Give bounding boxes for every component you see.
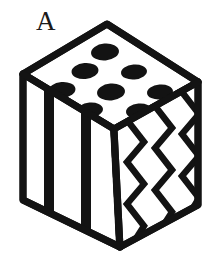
panel-label: A xyxy=(36,8,56,35)
vertical-stripe xyxy=(81,108,91,236)
vertical-stripe xyxy=(44,86,54,219)
isometric-block-diagram xyxy=(0,0,220,262)
figure-panel: A xyxy=(0,0,220,262)
